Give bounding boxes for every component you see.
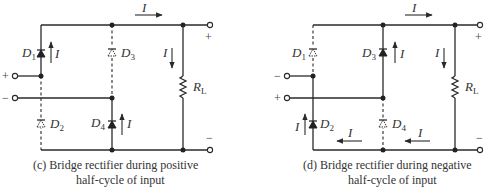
current-label: I — [294, 119, 300, 134]
d1-label: D1 — [21, 45, 36, 62]
caption-line-2: half-cycle of input — [348, 173, 437, 187]
current-label: I — [54, 46, 60, 61]
d2-label: D2 — [49, 116, 64, 133]
input-terminal-bottom — [12, 95, 17, 100]
junction-node — [311, 74, 316, 79]
current-label: I — [347, 125, 353, 140]
diagram-negative-half-cycle: D1 D2 D3 D4 RL I I I I I I − + + − (d) B… — [274, 0, 483, 187]
input-bottom-sign: − — [2, 91, 9, 105]
d3-label: D3 — [120, 45, 135, 62]
caption-line-1: (c) Bridge rectifier during positive — [33, 158, 198, 172]
output-terminal-negative — [207, 147, 212, 152]
diode-d1 — [37, 50, 45, 57]
load-resistor — [452, 76, 458, 98]
diode-d2 — [36, 118, 46, 128]
input-terminal-top — [12, 73, 17, 78]
input-top-sign: + — [2, 69, 9, 83]
junction-node — [381, 23, 386, 28]
output-terminal-negative — [477, 147, 482, 152]
caption-line-1: (d) Bridge rectifier during negative — [303, 158, 472, 172]
input-terminal-bottom — [284, 95, 289, 100]
load-resistor — [180, 76, 186, 98]
junction-node — [181, 23, 186, 28]
junction-node — [453, 23, 458, 28]
d1-label: D1 — [291, 45, 306, 62]
junction-node — [381, 148, 386, 153]
output-terminal-positive — [207, 22, 212, 27]
diode-d4 — [108, 121, 116, 128]
d4-label: D4 — [90, 115, 105, 132]
junction-node — [110, 23, 115, 28]
current-label: I — [411, 0, 417, 15]
bridge-rectifier-figure: D1 D2 D3 D4 RL I I I I + − + − (c) Bridg… — [0, 0, 489, 189]
load-label: RL — [464, 79, 478, 96]
input-bottom-sign: + — [274, 91, 281, 105]
diode-d1 — [308, 47, 318, 57]
d3-label: D3 — [361, 45, 376, 62]
current-label: I — [126, 116, 132, 131]
diode-d3 — [107, 47, 117, 57]
junction-node — [39, 74, 44, 79]
junction-node — [181, 148, 186, 153]
d4-label: D4 — [391, 116, 406, 133]
diagram-positive-half-cycle: D1 D2 D3 D4 RL I I I I + − + − (c) Bridg… — [2, 0, 213, 187]
current-label: I — [417, 125, 423, 140]
output-top-sign: + — [475, 30, 482, 44]
junction-node — [110, 96, 115, 101]
output-bottom-sign: − — [476, 131, 483, 145]
diode-d3 — [379, 49, 387, 56]
load-label: RL — [192, 79, 206, 96]
current-label: I — [141, 0, 147, 15]
diode-d4 — [378, 118, 388, 128]
caption-line-2: half-cycle of input — [76, 173, 165, 187]
input-top-sign: − — [274, 69, 281, 83]
junction-node — [110, 148, 115, 153]
junction-node — [453, 148, 458, 153]
output-terminal-positive — [477, 22, 482, 27]
junction-node — [381, 96, 386, 101]
input-terminal-top — [284, 73, 289, 78]
output-top-sign: + — [205, 30, 212, 44]
d2-label: D2 — [319, 116, 334, 133]
diode-d2 — [309, 121, 317, 128]
current-label: I — [399, 46, 405, 61]
current-label: I — [434, 45, 440, 60]
current-label: I — [162, 45, 168, 60]
output-bottom-sign: − — [206, 131, 213, 145]
